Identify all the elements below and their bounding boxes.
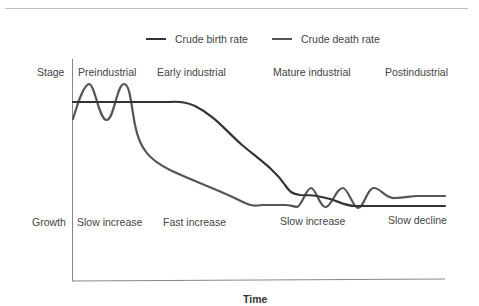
x-axis-title: Time bbox=[243, 293, 267, 305]
chart-plot-area bbox=[0, 0, 479, 306]
x-axis-line bbox=[72, 279, 445, 281]
birth-rate-line bbox=[73, 102, 445, 206]
